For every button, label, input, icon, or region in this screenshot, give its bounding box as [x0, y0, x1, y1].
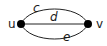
edge-e-label: e — [63, 30, 70, 44]
edge-c-label: c — [33, 1, 40, 15]
vertex-v — [84, 20, 92, 28]
multigraph-diagram: u v c d e — [0, 0, 107, 46]
vertex-v-label: v — [96, 17, 103, 31]
vertex-u — [17, 20, 25, 28]
vertex-u-label: u — [8, 17, 16, 31]
edge-e — [21, 24, 88, 39]
edge-d-label: d — [50, 10, 58, 24]
